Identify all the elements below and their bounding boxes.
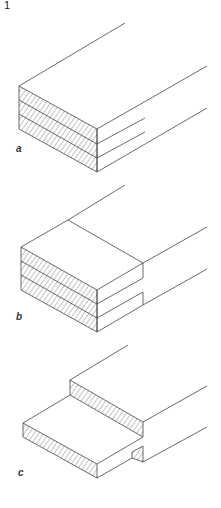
panel-b-drawing — [21, 185, 207, 332]
panel-c-drawing — [23, 345, 207, 478]
panel-label-c: c — [18, 467, 24, 478]
panel-label-b: b — [16, 311, 22, 322]
panel-label-a: a — [16, 143, 22, 154]
joint-diagram — [0, 0, 221, 508]
panel-a-drawing — [19, 23, 207, 172]
